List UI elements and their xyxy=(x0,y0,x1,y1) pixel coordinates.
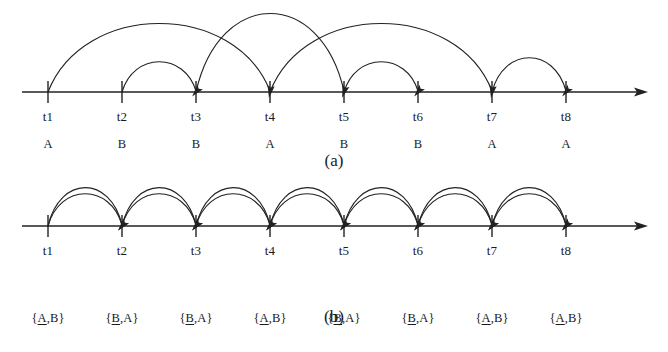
timepoint-label-t6: t6 xyxy=(388,110,448,123)
arc-t1-to-t2 xyxy=(48,194,122,226)
timepoint-label-t4: t4 xyxy=(240,110,300,123)
panel-a: t1At2Bt3Bt4At5Bt6Bt7At8A (a) xyxy=(0,0,668,180)
timepoint-label-t4: t4 xyxy=(240,244,300,257)
symbol-label-t3: B xyxy=(166,138,226,151)
panel-b-caption: (b) xyxy=(0,308,668,325)
arc-t7-to-t8 xyxy=(492,58,566,92)
symbol-label-t7: A xyxy=(462,138,522,151)
symbol-label-t4: A xyxy=(240,138,300,151)
arc-t3-to-t4 xyxy=(196,194,270,226)
timepoint-label-t5: t5 xyxy=(314,110,374,123)
arc-t6-to-t7 xyxy=(418,194,492,226)
timepoint-label-t7: t7 xyxy=(462,244,522,257)
arc-t5-to-t6 xyxy=(344,194,418,226)
timepoint-label-t3: t3 xyxy=(166,244,226,257)
arc-t7-to-t8 xyxy=(492,194,566,226)
timepoint-label-t1: t1 xyxy=(18,110,78,123)
symbol-label-t1: A xyxy=(18,138,78,151)
arc-t3-to-t5 xyxy=(196,13,344,92)
arc-t1-to-t4 xyxy=(48,24,270,92)
arc-t5-to-t6 xyxy=(344,62,418,92)
timepoint-label-t7: t7 xyxy=(462,110,522,123)
timepoint-label-t8: t8 xyxy=(536,244,596,257)
arc-diagram-figure: t1At2Bt3Bt4At5Bt6Bt7At8A (a) t1{A,B}t2{B… xyxy=(0,0,668,352)
timepoint-label-t5: t5 xyxy=(314,244,374,257)
timepoint-label-t8: t8 xyxy=(536,110,596,123)
symbol-label-t6: B xyxy=(388,138,448,151)
timepoint-label-t6: t6 xyxy=(388,244,448,257)
arc-t2-to-t3 xyxy=(122,62,196,92)
timepoint-label-t2: t2 xyxy=(92,110,152,123)
arc-t4-to-t7 xyxy=(270,24,492,92)
symbol-label-t2: B xyxy=(92,138,152,151)
arc-t2-to-t3 xyxy=(122,194,196,226)
panel-b-canvas xyxy=(0,180,668,352)
panel-b: t1{A,B}t2{B,A}t3{B,A}t4{A,B}t5{B,A}t6{B,… xyxy=(0,180,668,352)
arc-t4-to-t5 xyxy=(270,194,344,226)
timepoint-label-t1: t1 xyxy=(18,244,78,257)
panel-a-caption: (a) xyxy=(0,152,668,169)
symbol-label-t8: A xyxy=(536,138,596,151)
symbol-label-t5: B xyxy=(314,138,374,151)
timepoint-label-t2: t2 xyxy=(92,244,152,257)
timepoint-label-t3: t3 xyxy=(166,110,226,123)
